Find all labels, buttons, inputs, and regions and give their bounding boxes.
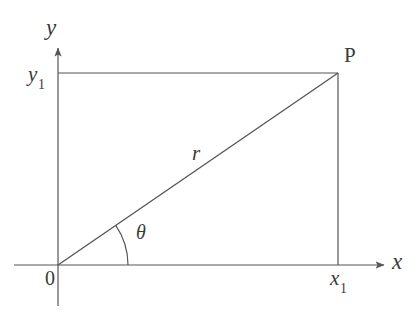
y1-base: y [28, 62, 37, 86]
radius-label: r [192, 143, 200, 164]
radius-segment [58, 73, 338, 265]
theta-label: θ [136, 222, 146, 242]
theta-arc [116, 225, 128, 265]
origin-label: 0 [45, 268, 55, 288]
y1-subscript: 1 [38, 77, 45, 92]
coordinate-diagram: y x y1 x1 0 P r θ [0, 0, 418, 319]
x1-label: x1 [330, 268, 346, 293]
y-axis-label: y [46, 16, 56, 39]
x1-subscript: 1 [340, 281, 347, 296]
x-axis-label: x [392, 250, 402, 273]
y1-label: y1 [28, 64, 44, 89]
point-p-label: P [344, 45, 356, 66]
x1-base: x [330, 266, 339, 290]
